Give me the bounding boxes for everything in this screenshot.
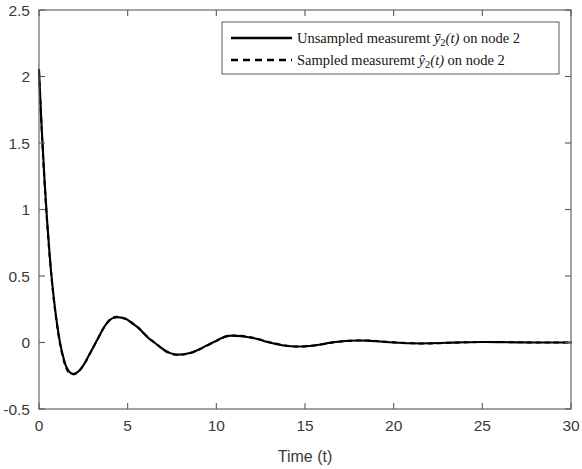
y-tick-label: 0.5: [8, 268, 30, 285]
x-tick-label: 0: [35, 417, 44, 434]
legend-label-sampled: Sampled measuremt ŷ2(t) on node 2: [297, 52, 505, 70]
x-axis-tick-labels: 051015202530: [35, 417, 580, 434]
y-tick-label: 2.5: [8, 2, 30, 19]
x-tick-label: 5: [123, 417, 132, 434]
x-tick-label: 10: [208, 417, 226, 434]
y-axis-tick-labels: -0.500.511.522.5: [3, 2, 30, 418]
y-tick-label: 0: [21, 334, 30, 351]
line-chart: 051015202530 -0.500.511.522.5 Time (t) U…: [0, 0, 582, 469]
y-tick-label: 1.5: [8, 135, 30, 152]
legend-label-unsampled: Unsampled measuremt ȳ2(t) on node 2: [297, 30, 520, 48]
x-tick-label: 20: [385, 417, 403, 434]
x-tick-label: 25: [474, 417, 491, 434]
x-tick-label: 30: [562, 417, 580, 434]
chart-figure: 051015202530 -0.500.511.522.5 Time (t) U…: [0, 0, 582, 469]
y-tick-label: -0.5: [3, 401, 30, 418]
legend: Unsampled measuremt ȳ2(t) on node 2 Sam…: [222, 22, 559, 74]
y-tick-label: 1: [21, 201, 30, 218]
x-tick-label: 15: [296, 417, 313, 434]
y-tick-label: 2: [21, 68, 30, 85]
x-axis-title: Time (t): [278, 448, 333, 465]
